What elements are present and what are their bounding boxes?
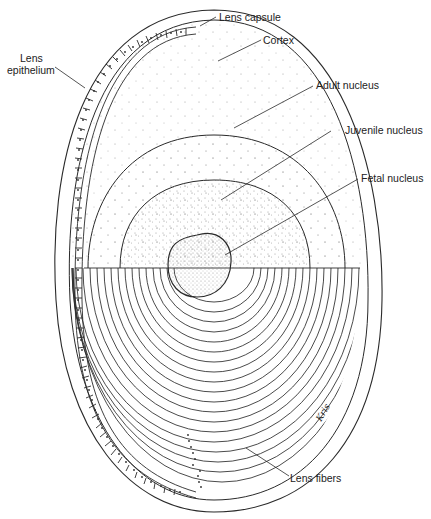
- fetal-nucleus: [168, 233, 231, 297]
- label-lens-epithelium-1: Lens: [20, 52, 43, 64]
- label-adult-nucleus: Adult nucleus: [316, 79, 379, 91]
- label-lens-capsule: Lens capsule: [219, 11, 281, 23]
- label-lens-fibers: Lens fibers: [290, 472, 341, 484]
- label-cortex: Cortex: [263, 34, 295, 46]
- label-fetal-nucleus: Fetal nucleus: [361, 172, 423, 184]
- label-lens-epithelium-2: epithelium: [7, 64, 55, 76]
- lens-diagram: Lens capsule Cortex Lens epithelium Adul…: [0, 0, 431, 519]
- label-juvenile-nucleus: Juvenile nucleus: [345, 124, 423, 136]
